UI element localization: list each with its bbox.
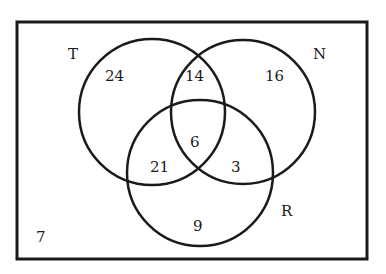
region-r-only: 9: [193, 217, 203, 235]
region-t-n: 14: [185, 67, 204, 85]
set-label-t: T: [68, 45, 78, 63]
circle-n: [171, 40, 315, 184]
region-t-n-r: 6: [190, 133, 200, 151]
region-t-only: 24: [105, 67, 124, 85]
set-label-r: R: [281, 202, 293, 220]
set-label-n: N: [313, 45, 326, 63]
region-none: 7: [36, 228, 46, 246]
venn-diagram: T N R 24 14 16 6 21 3 9 7: [0, 0, 386, 274]
region-n-only: 16: [265, 67, 284, 85]
region-n-r: 3: [231, 158, 241, 176]
region-t-r: 21: [150, 158, 169, 176]
